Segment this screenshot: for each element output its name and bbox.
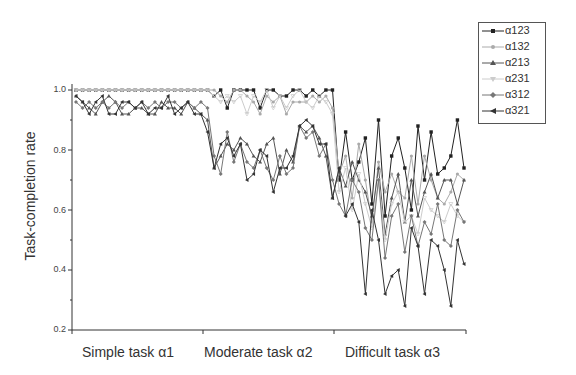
- y-tick-label: 0.8: [44, 145, 66, 155]
- y-tick-label: 0.2: [44, 324, 66, 334]
- legend-item: α123: [479, 23, 545, 39]
- axes: [68, 84, 466, 334]
- x-category-moderate: Moderate task α2: [204, 344, 312, 360]
- y-tick-label: 0.4: [44, 264, 66, 274]
- legend: α123 α132 α213 α231 α312 α321: [478, 22, 546, 124]
- x-category-simple: Simple task α1: [82, 344, 174, 360]
- series-lines: [74, 88, 466, 308]
- legend-item: α213: [479, 55, 545, 71]
- x-category-difficult: Difficult task α3: [345, 344, 440, 360]
- legend-item: α312: [479, 87, 545, 103]
- y-tick-label: 0.6: [44, 205, 66, 215]
- legend-item: α231: [479, 71, 545, 87]
- y-axis-label: Task-completion rate: [22, 126, 38, 266]
- legend-item: α321: [479, 103, 545, 119]
- legend-item: α132: [479, 39, 545, 55]
- y-tick-label: 1.0: [44, 84, 66, 94]
